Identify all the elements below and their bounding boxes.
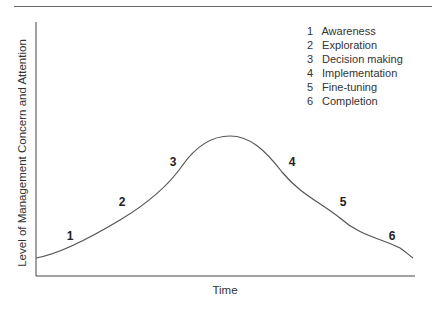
legend-item-exploration: 2 Exploration bbox=[307, 38, 403, 52]
legend-num: 2 bbox=[307, 38, 319, 52]
stage-label-6: 6 bbox=[389, 229, 396, 243]
stage-label-1: 1 bbox=[67, 229, 74, 243]
legend-num: 6 bbox=[307, 94, 319, 108]
legend-item-fine-tuning: 5 Fine-tuning bbox=[307, 80, 403, 94]
legend-num: 1 bbox=[307, 24, 319, 38]
legend: 1 Awareness 2 Exploration 3 Decision mak… bbox=[307, 24, 403, 108]
legend-item-implementation: 4 Implementation bbox=[307, 66, 403, 80]
legend-item-completion: 6 Completion bbox=[307, 94, 403, 108]
stage-label-2: 2 bbox=[119, 195, 126, 209]
stage-label-3: 3 bbox=[170, 155, 177, 169]
legend-item-decision-making: 3 Decision making bbox=[307, 52, 403, 66]
legend-label: Fine-tuning bbox=[322, 81, 377, 93]
stage-label-5: 5 bbox=[340, 195, 347, 209]
stage-label-4: 4 bbox=[289, 155, 296, 169]
legend-num: 5 bbox=[307, 80, 319, 94]
concern-curve bbox=[36, 136, 413, 258]
legend-label: Awareness bbox=[321, 25, 375, 37]
legend-num: 4 bbox=[307, 66, 319, 80]
y-axis-label: Level of Management Concern and Attentio… bbox=[16, 39, 28, 267]
x-axis-label: Time bbox=[212, 284, 237, 296]
legend-label: Exploration bbox=[322, 39, 377, 51]
legend-label: Completion bbox=[322, 95, 378, 107]
legend-num: 3 bbox=[307, 52, 319, 66]
legend-label: Implementation bbox=[322, 67, 397, 79]
legend-label: Decision making bbox=[322, 53, 403, 65]
legend-item-awareness: 1 Awareness bbox=[307, 24, 403, 38]
